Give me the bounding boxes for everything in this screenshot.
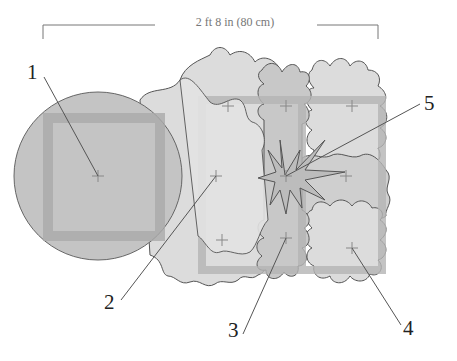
layout-illustration — [0, 0, 457, 361]
callout-1: 1 — [27, 62, 38, 83]
dimension-label: 2 ft 8 in (80 cm) — [160, 15, 310, 30]
callout-5: 5 — [424, 93, 435, 114]
callout-2: 2 — [104, 292, 115, 313]
diagram: 2 ft 8 in (80 cm) 1 2 3 4 5 — [0, 0, 457, 361]
callout-4: 4 — [403, 318, 414, 339]
wavy-tile-top-right — [305, 59, 387, 169]
callout-3: 3 — [228, 320, 239, 341]
